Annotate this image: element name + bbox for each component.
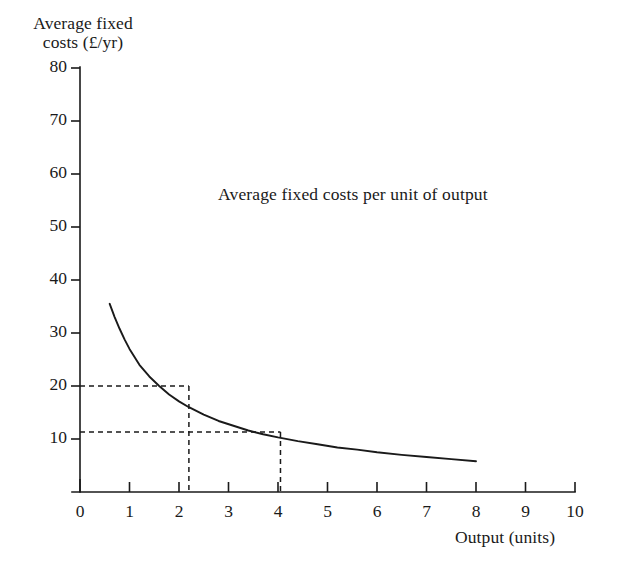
plot-area	[0, 0, 627, 566]
axes	[72, 67, 575, 492]
x-axis-ticks	[80, 479, 575, 492]
average-fixed-cost-curve	[110, 304, 476, 461]
chart-figure: Average fixed costs (£/yr) Average fixed…	[0, 0, 627, 566]
y-axis-ticks	[71, 68, 80, 439]
